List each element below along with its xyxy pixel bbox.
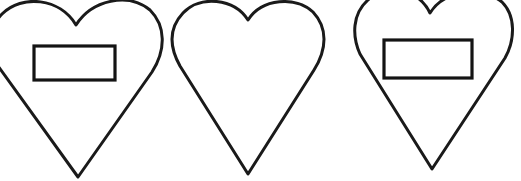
figure-canvas: Three heart outlines, two containing a h… bbox=[0, 0, 521, 181]
heart-3-rectangle[interactable] bbox=[384, 40, 472, 78]
heart-1-rectangle[interactable] bbox=[34, 46, 115, 80]
heart-figure-svg: Three heart outlines, two containing a h… bbox=[0, 0, 521, 181]
